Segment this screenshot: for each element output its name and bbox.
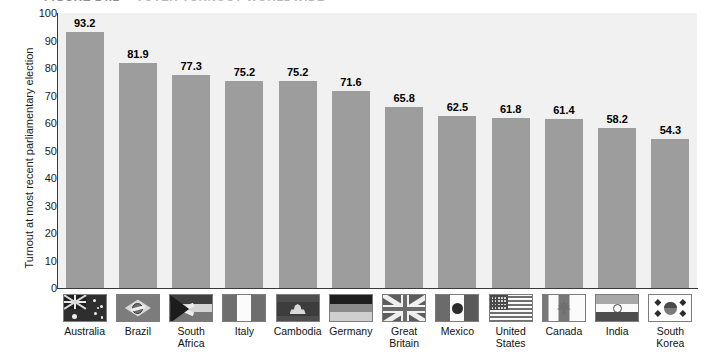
category-cell[interactable]: Italy: [218, 294, 271, 338]
y-axis-tick-label: 10: [45, 255, 57, 267]
italy-flag: [222, 294, 266, 322]
figure-title-text: VOTER TURNOUT WORLDWIDE: [136, 0, 325, 3]
plot-area: 93.281.977.375.275.271.665.862.561.861.4…: [58, 13, 697, 288]
category-cell[interactable]: South Korea: [644, 294, 697, 349]
south-africa-flag: [169, 294, 213, 322]
bar-value-label: 81.9: [127, 48, 148, 60]
bar-value-label: 77.3: [180, 60, 201, 72]
bar-group[interactable]: 71.6: [324, 13, 377, 288]
bar-value-label: 58.2: [606, 113, 627, 125]
united-states-flag: [489, 294, 533, 322]
y-axis-tick-label: 20: [45, 227, 57, 239]
y-axis-tick-label: 50: [45, 145, 57, 157]
country-label: Australia: [58, 326, 111, 338]
country-label: Germany: [324, 326, 377, 338]
y-axis-tick-10: 10: [20, 255, 57, 267]
bar-value-label: 71.6: [340, 76, 361, 88]
bar[interactable]: [492, 118, 530, 288]
y-axis-tick-label: 100: [39, 7, 57, 19]
bar-value-label: 65.8: [393, 92, 414, 104]
brazil-flag: [116, 294, 160, 322]
bar-value-label: 75.2: [287, 66, 308, 78]
bar[interactable]: [279, 81, 317, 288]
bar[interactable]: [172, 75, 210, 288]
canada-flag: [542, 294, 586, 322]
bar-group[interactable]: 54.3: [644, 13, 697, 288]
south-korea-flag: [648, 294, 692, 322]
figure-number: FIGURE 14.2: [44, 0, 120, 3]
country-label: United States: [484, 326, 537, 349]
category-cell[interactable]: Cambodia: [271, 294, 324, 338]
category-cell[interactable]: Brazil: [111, 294, 164, 338]
bar-group[interactable]: 58.2: [591, 13, 644, 288]
x-axis-category-strip: AustraliaBrazilSouth AfricaItalyCambodia…: [58, 294, 697, 359]
bar-group[interactable]: 93.2: [58, 13, 111, 288]
bar-value-label: 61.4: [553, 104, 574, 116]
country-label: Mexico: [431, 326, 484, 338]
y-axis-tick-50: 50: [20, 145, 57, 157]
bar[interactable]: [225, 81, 263, 288]
category-cell[interactable]: Canada: [537, 294, 590, 338]
country-label: Great Britain: [378, 326, 431, 349]
y-axis-tick-0: 0: [20, 282, 57, 294]
india-flag: [595, 294, 639, 322]
y-axis-tick-20: 20: [20, 227, 57, 239]
x-axis-line: [57, 288, 698, 289]
country-label: Cambodia: [271, 326, 324, 338]
y-axis-tick-label: 60: [45, 117, 57, 129]
bar-value-label: 62.5: [447, 101, 468, 113]
australia-flag: [63, 294, 107, 322]
bar[interactable]: [66, 32, 104, 288]
bar-group[interactable]: 62.5: [431, 13, 484, 288]
bar[interactable]: [598, 128, 636, 288]
bar-group[interactable]: 61.8: [484, 13, 537, 288]
category-cell[interactable]: United States: [484, 294, 537, 349]
category-cell[interactable]: India: [591, 294, 644, 338]
category-cell[interactable]: Great Britain: [378, 294, 431, 349]
bar[interactable]: [332, 91, 370, 288]
y-axis-tick-30: 30: [20, 200, 57, 212]
bar[interactable]: [119, 63, 157, 288]
bar-group[interactable]: 77.3: [165, 13, 218, 288]
y-axis-tick-label: 90: [45, 35, 57, 47]
y-axis-tick-90: 90: [20, 35, 57, 47]
y-axis-tick-70: 70: [20, 90, 57, 102]
bar[interactable]: [385, 107, 423, 288]
bar-group[interactable]: 75.2: [271, 13, 324, 288]
germany-flag: [329, 294, 373, 322]
country-label: South Africa: [165, 326, 218, 349]
page-title: FIGURE 14.2VOTER TURNOUT WORLDWIDE: [44, 0, 325, 5]
bar-group[interactable]: 75.2: [218, 13, 271, 288]
country-label: Canada: [537, 326, 590, 338]
mexico-flag: [435, 294, 479, 322]
bar[interactable]: [651, 139, 689, 288]
y-axis-tick-60: 60: [20, 117, 57, 129]
category-cell[interactable]: Germany: [324, 294, 377, 338]
bar-group[interactable]: 65.8: [378, 13, 431, 288]
great-britain-flag: [382, 294, 426, 322]
bar-value-label: 75.2: [234, 66, 255, 78]
y-axis-tick-label: 30: [45, 200, 57, 212]
bar[interactable]: [438, 116, 476, 288]
bar[interactable]: [545, 119, 583, 288]
y-axis-tick-label: 80: [45, 62, 57, 74]
cambodia-flag: [276, 294, 320, 322]
bar-value-label: 54.3: [660, 124, 681, 136]
bar-value-label: 61.8: [500, 103, 521, 115]
bar-group[interactable]: 61.4: [537, 13, 590, 288]
y-axis-tick-label: 70: [45, 90, 57, 102]
y-axis-tick-80: 80: [20, 62, 57, 74]
figure-root: FIGURE 14.2VOTER TURNOUT WORLDWIDE Turno…: [0, 0, 710, 359]
y-axis-tick-40: 40: [20, 172, 57, 184]
y-axis-ticks: 1009080706050403020100: [20, 13, 57, 288]
y-axis-tick-100: 100: [20, 7, 57, 19]
country-label: Italy: [218, 326, 271, 338]
bar-group[interactable]: 81.9: [111, 13, 164, 288]
country-label: India: [591, 326, 644, 338]
category-cell[interactable]: Australia: [58, 294, 111, 338]
y-axis-tick-label: 40: [45, 172, 57, 184]
category-cell[interactable]: Mexico: [431, 294, 484, 338]
bar-value-label: 93.2: [74, 17, 95, 29]
country-label: Brazil: [111, 326, 164, 338]
category-cell[interactable]: South Africa: [165, 294, 218, 349]
